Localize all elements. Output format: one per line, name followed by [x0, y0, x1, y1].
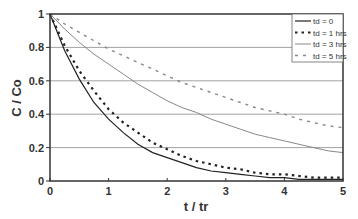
y-tick-label: 0: [38, 175, 44, 187]
y-tick-label: 0.8: [29, 41, 44, 53]
legend: td = 0td = 1 hrstd = 3 hrstd = 5 hrs: [292, 14, 347, 62]
y-tick-label: 0.6: [29, 75, 44, 87]
x-tick-label: 3: [223, 185, 229, 197]
y-axis-ticks: 00.20.40.60.81: [29, 8, 50, 187]
x-axis-label: t / tr: [184, 199, 209, 214]
x-tick-label: 5: [340, 185, 346, 197]
legend-label: td = 0: [313, 17, 334, 26]
x-tick-label: 4: [281, 185, 288, 197]
x-tick-label: 0: [47, 185, 53, 197]
y-tick-label: 1: [38, 8, 44, 20]
x-tick-label: 1: [106, 185, 112, 197]
legend-label: td = 3 hrs: [313, 40, 347, 49]
line-chart: 012345 00.20.40.60.81 t / tr C / Co td =…: [0, 0, 358, 219]
legend-label: td = 1 hrs: [313, 29, 347, 38]
y-axis-label: C / Co: [9, 79, 24, 117]
x-tick-label: 2: [164, 185, 170, 197]
y-tick-label: 0.4: [29, 108, 45, 120]
legend-label: td = 5 hrs: [313, 52, 347, 61]
y-tick-label: 0.2: [29, 142, 44, 154]
gridlines: [50, 47, 343, 147]
